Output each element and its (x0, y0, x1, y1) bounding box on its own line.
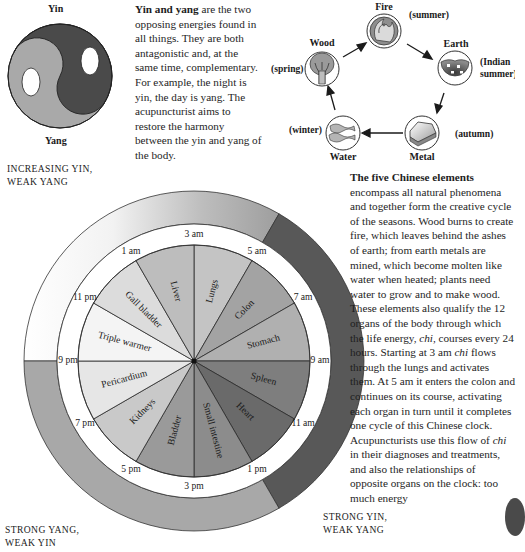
hour-label: 11 am (291, 417, 315, 428)
season-earth-line1: (Indian (480, 56, 511, 68)
zone-label-line: INCREASING YIN, (7, 163, 93, 176)
element-name-wood: Wood (309, 37, 334, 48)
yin-eye (81, 47, 99, 75)
five-elements-paragraph: The five Chinese elements encompass all … (350, 170, 515, 506)
zone-label-strong-yin: STRONG YIN, WEAK YANG (323, 511, 387, 536)
wood-element (305, 52, 339, 86)
season-fire: (summer) (409, 9, 449, 21)
yin-yang-symbol (2, 6, 130, 128)
hour-label: 7 am (294, 291, 313, 302)
season-wood: (spring) (271, 63, 304, 75)
partial-figure-edge (505, 498, 525, 536)
element-name-earth: Earth (444, 38, 469, 49)
season-earth-line2: summer) (480, 68, 515, 80)
zone-label-line: WEAK YANG (323, 524, 387, 537)
organ-clock: 3 am5 am7 am9 am11 am1 pm3 pm5 pm7 pm9 p… (24, 191, 364, 531)
chi-term: chi (419, 332, 433, 344)
season-metal: (autumn) (455, 128, 493, 140)
fire-element (367, 14, 401, 48)
yin-yang-paragraph: Yin and yang are the two opposing energi… (135, 2, 263, 163)
zone-label-line: WEAK YANG (7, 176, 93, 189)
yin-label: Yin (48, 3, 63, 14)
hour-label: 5 pm (121, 463, 141, 474)
zone-label-line: WEAK YIN (5, 537, 79, 550)
paragraph-part: flows through the lungs and activates th… (350, 346, 515, 446)
hour-label: 7 pm (75, 417, 95, 428)
yang-label: Yang (45, 135, 67, 146)
zone-label-increasing-yin: INCREASING YIN, WEAK YANG (7, 163, 93, 188)
water-element (326, 116, 360, 150)
five-elements-cycle: Fire Earth Metal Water Wood (summer) (In… (271, 1, 515, 162)
element-name-fire: Fire (375, 1, 393, 12)
hour-label: 3 am (185, 228, 204, 239)
hour-label: 5 am (248, 245, 267, 256)
paragraph-part: encompass all natural phenomena and toge… (350, 186, 513, 344)
element-name-water: Water (330, 151, 357, 162)
earth-element (438, 51, 472, 85)
hour-label: 11 pm (73, 291, 97, 302)
hour-label: 3 pm (184, 480, 204, 491)
hour-label: 9 pm (58, 354, 78, 365)
hour-label: 1 pm (247, 463, 267, 474)
hour-label: 1 am (122, 245, 141, 256)
zone-label-line: STRONG YANG, (5, 524, 79, 537)
five-elements-lead: The five Chinese elements (350, 171, 474, 183)
yin-yang-body: are the two opposing energies found in a… (135, 3, 261, 161)
clock-center (191, 358, 196, 363)
metal-element (405, 116, 439, 150)
paragraph-part: in their diagnoses and treatments, and a… (350, 448, 500, 504)
zone-label-strong-yang: STRONG YANG, WEAK YIN (5, 524, 79, 549)
season-water: (winter) (289, 124, 322, 136)
chi-term: chi (493, 434, 507, 446)
hour-label: 9 am (311, 354, 330, 365)
yin-yang-lead: Yin and yang (135, 3, 199, 15)
element-name-metal: Metal (410, 151, 435, 162)
chi-term: chi (454, 346, 468, 358)
zone-label-line: STRONG YIN, (323, 511, 387, 524)
yang-eye (22, 68, 40, 96)
